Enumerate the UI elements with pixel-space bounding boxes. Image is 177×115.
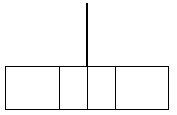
box-cell-1 — [5, 66, 60, 110]
vertical-line — [86, 3, 88, 67]
box-cell-4 — [115, 66, 169, 110]
box-cell-3 — [87, 66, 117, 110]
box-cell-2 — [59, 66, 89, 110]
diagram-canvas — [0, 0, 177, 115]
